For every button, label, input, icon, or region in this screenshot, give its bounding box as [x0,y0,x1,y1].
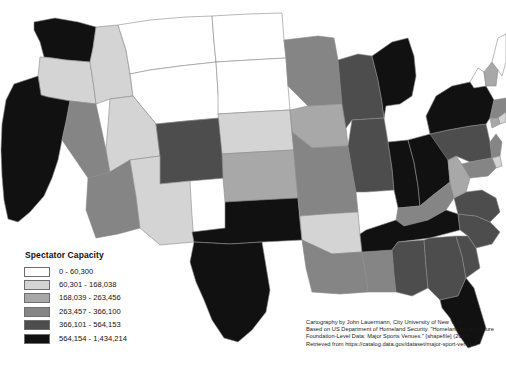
state-vt [470,68,486,88]
state-nd [212,13,286,62]
attribution-line-1: Based on US Department of Homeland Secur… [306,326,502,333]
legend-item: 263,457 - 366,100 [24,305,174,318]
map-attribution: Cartography by John Lauermann, City Univ… [306,319,502,348]
legend-swatch-2 [24,293,50,303]
legend-swatch-0 [24,267,50,277]
legend-item: 564,154 - 1,434,214 [24,332,174,345]
state-nv [62,101,110,178]
state-wa [34,18,96,62]
legend-item: 168,039 - 263,456 [24,292,174,305]
legend-swatch-4 [24,320,50,330]
attribution-line-2: Foundation-Level Data: Major Sports Venu… [306,333,502,340]
state-il [348,118,394,192]
attribution-line-0: Cartography by John Lauermann, City Univ… [306,319,502,326]
state-sd [216,58,290,114]
map-legend: Spectator Capacity 0 - 60,300 60,301 - 1… [24,250,174,345]
state-co [156,118,225,184]
state-ne [218,110,294,154]
state-mn [284,36,342,106]
legend-label-2: 168,039 - 263,456 [59,293,121,303]
legend-swatch-5 [24,334,50,344]
legend-item: 0 - 60,300 [24,265,174,278]
state-ms [362,250,396,292]
state-tx [190,242,270,342]
attribution-line-3: Retrieved from https://catalog.data.gov/… [306,341,502,348]
choropleth-map-figure: Spectator Capacity 0 - 60,300 60,301 - 1… [0,0,506,370]
legend-swatch-1 [24,280,50,290]
legend-item: 366,101 - 564,153 [24,319,174,332]
legend-swatch-3 [24,307,50,317]
legend-label-1: 60,301 - 168,038 [59,280,116,290]
state-nj [490,134,502,158]
legend-item: 60,301 - 168,038 [24,278,174,291]
legend-label-4: 366,101 - 564,153 [59,320,121,330]
legend-label-5: 564,154 - 1,434,214 [59,334,127,344]
legend-title: Spectator Capacity [25,250,174,260]
legend-label-3: 263,457 - 366,100 [59,307,121,317]
legend-label-0: 0 - 60,300 [59,267,93,277]
state-ks [222,150,298,202]
state-al [392,240,428,296]
state-ct [490,118,500,128]
state-ok [192,198,302,244]
